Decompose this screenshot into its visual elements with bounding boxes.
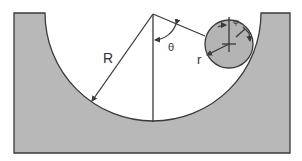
center-to-ball-line	[153, 14, 205, 36]
radius-R-line	[92, 14, 153, 101]
trough-ball-diagram: R θ r ψ	[0, 0, 302, 161]
label-r: r	[197, 52, 202, 67]
label-psi: ψ	[233, 17, 239, 26]
theta-angle-arc	[155, 24, 176, 40]
label-R: R	[103, 50, 113, 66]
label-theta: θ	[168, 41, 174, 53]
